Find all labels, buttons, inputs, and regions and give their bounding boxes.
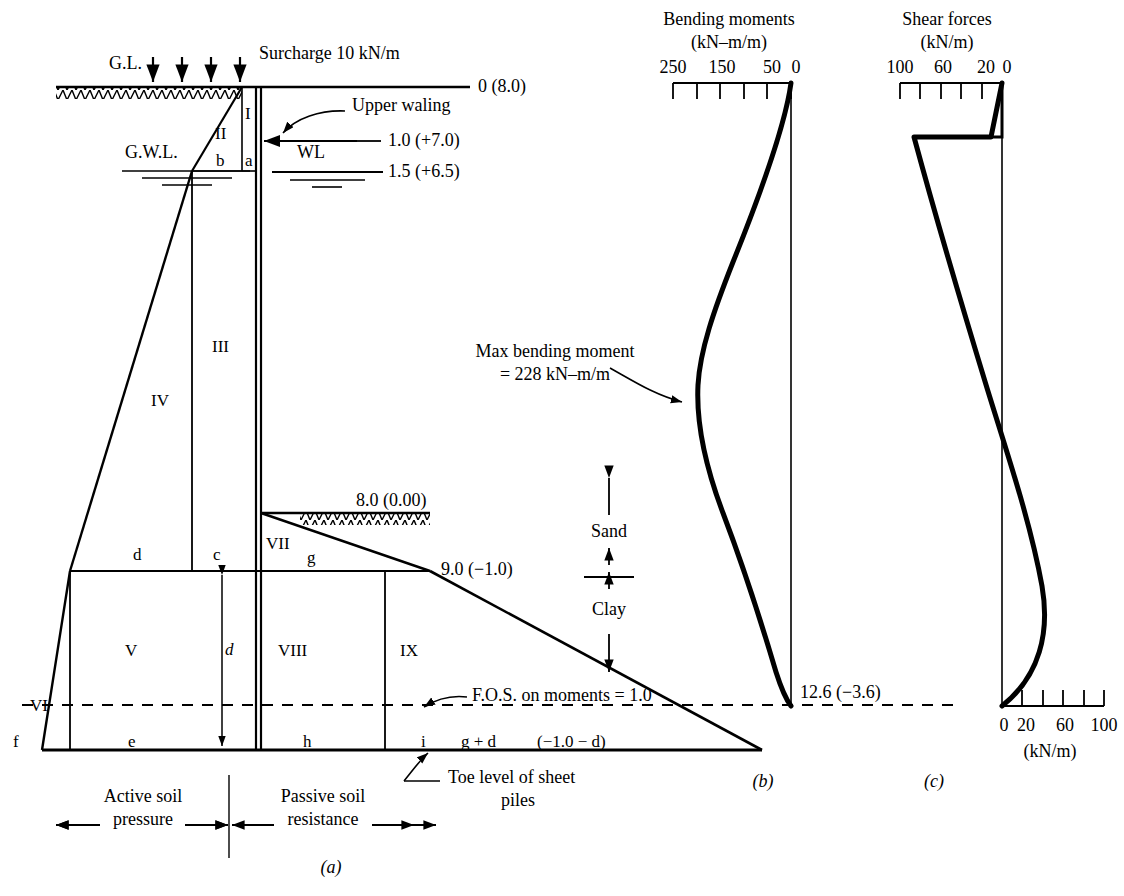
pressure-letter-d: d: [133, 546, 142, 563]
bm-tick-label-150: 150: [709, 58, 736, 76]
bm-tick-label-50: 50: [763, 58, 781, 76]
depth-dredge-label: 8.0 (0.00): [356, 491, 427, 509]
sf-title: Shear forces: [902, 10, 991, 28]
active-label-line2: pressure: [113, 810, 173, 828]
bm-curve: [698, 83, 791, 706]
panel-a-caption: (a): [321, 858, 342, 876]
sf-bottom-tick-label-100: 100: [1091, 716, 1118, 734]
pressure-letter-g-plus-d: g + d: [461, 733, 496, 750]
soil-key-lower: Clay: [592, 600, 626, 618]
figure-root: G.L. Surcharge 10 kN/m 0 (8.0) Upper wal…: [0, 0, 1124, 896]
zone-label-III: III: [212, 338, 229, 355]
surcharge-label: Surcharge 10 kN/m: [259, 44, 400, 62]
depth-waling-label: 1.0 (+7.0): [388, 131, 460, 149]
depth-symbol-d: d: [225, 641, 234, 658]
bm-title: Bending moments: [663, 10, 795, 28]
passive-label-line2: resistance: [288, 810, 359, 828]
depth-water-label: 1.5 (+6.5): [388, 162, 460, 180]
zone-IV-slope: [70, 171, 192, 571]
wl-marks: [272, 172, 383, 187]
sf-xlabel-top: (kN/m): [921, 33, 974, 51]
sf-top-spike: [991, 83, 1002, 137]
groundwater-label: G.W.L.: [125, 143, 178, 161]
pressure-letter-e: e: [128, 733, 136, 750]
bm-axis-ticks: [673, 83, 791, 99]
sf-bottom-axis-ticks: [1022, 690, 1104, 706]
water-level-label: WL: [297, 143, 325, 161]
upper-waling-leader: [283, 111, 345, 133]
zone-label-VII: VII: [266, 535, 290, 552]
sf-curve: [914, 83, 1045, 706]
depth-top-label: 0 (8.0): [478, 77, 526, 95]
bm-xlabel: (kN–m/m): [691, 33, 767, 51]
bm-depth-label: 12.6 (−3.6): [800, 683, 881, 701]
figure-svg: [0, 0, 1124, 896]
zone-label-IV: IV: [151, 392, 169, 409]
zone-label-I: I: [245, 105, 251, 122]
zone-label-V: V: [125, 642, 137, 659]
toe-level-leader: [404, 753, 428, 781]
zone-VI-slope: [42, 571, 70, 750]
panel-b: [610, 83, 791, 706]
pressure-letter-i: i: [421, 733, 426, 750]
ground-level-label: G.L.: [109, 54, 142, 72]
pressure-letter-f: f: [13, 733, 19, 750]
pressure-letter-a: a: [245, 152, 253, 169]
pressure-letter-b: b: [216, 152, 225, 169]
sf-top-axis-ticks: [900, 83, 1002, 99]
zone-label-VI: VI: [30, 697, 48, 714]
sf-top-tick-label-20: 20: [977, 58, 995, 76]
panel-c: [900, 83, 1104, 706]
gwl-marks: [122, 171, 250, 185]
bm-annotation-line1: Max bending moment: [476, 342, 635, 360]
bm-annotation-leader: [610, 368, 682, 402]
depth-sand-clay-label: 9.0 (−1.0): [441, 560, 513, 578]
bm-annotation-line2: = 228 kN–m/m: [500, 365, 610, 383]
sf-top-tick-label-100: 100: [887, 58, 914, 76]
pressure-letter-g: g: [307, 549, 316, 566]
zone-label-IX: IX: [400, 642, 418, 659]
passive-label-line1: Passive soil: [281, 787, 366, 805]
panel-b-caption: (b): [753, 772, 774, 790]
ground-hatch: [56, 88, 242, 99]
zone-IX-slope: [430, 571, 762, 750]
zone-label-II: II: [215, 125, 226, 142]
surcharge-arrows: [153, 57, 240, 82]
sf-bottom-tick-label-60: 60: [1056, 716, 1074, 734]
pressure-letter-h: h: [303, 733, 312, 750]
bm-tick-label-250: 250: [660, 58, 687, 76]
zone-label-VIII: VIII: [278, 642, 307, 659]
pressure-letter-c: c: [213, 546, 221, 563]
active-label-line1: Active soil: [104, 787, 183, 805]
soil-key-upper: Sand: [591, 522, 627, 540]
fos-note: F.O.S. on moments = 1.0: [472, 686, 652, 704]
toe-note-line1: Toe level of sheet: [448, 768, 575, 786]
toe-note-line2: piles: [501, 791, 535, 809]
bm-tick-label-0: 0: [792, 58, 801, 76]
panel-c-caption: (c): [924, 772, 944, 790]
sf-bottom-tick-label-20: 20: [1017, 716, 1035, 734]
sf-xlabel-bottom: (kN/m): [1024, 742, 1077, 760]
sf-top-tick-label-0: 0: [1003, 58, 1012, 76]
sf-top-tick-label-60: 60: [934, 58, 952, 76]
sf-bottom-tick-label-0: 0: [1000, 716, 1009, 734]
depth-toe-label: (−1.0 − d): [537, 733, 606, 750]
upper-waling-label: Upper waling: [352, 96, 450, 114]
soil-key: [584, 478, 634, 672]
dredge-hatch: [300, 514, 430, 525]
